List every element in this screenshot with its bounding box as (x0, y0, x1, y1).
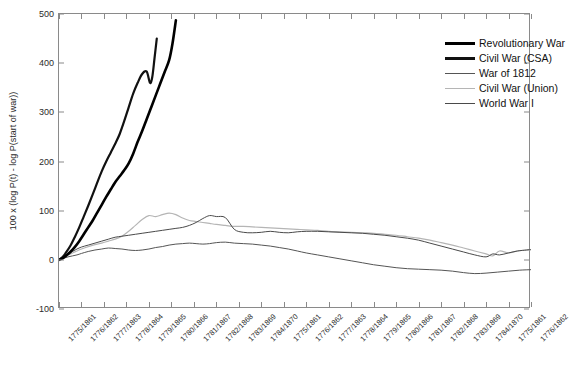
x-tick-mark (374, 302, 375, 307)
y-tick-mark (524, 112, 529, 113)
y-tick-label: 0 (49, 255, 54, 265)
plot-area: -1000100200300400500 Revolutionary WarCi… (58, 13, 530, 308)
y-tick-label: 200 (39, 157, 54, 167)
x-tick-mark (216, 302, 217, 307)
y-tick-mark (59, 63, 64, 64)
x-tick-mark (261, 302, 262, 307)
x-tick-mark (419, 302, 420, 307)
y-tick-label: 500 (39, 9, 54, 19)
x-tick-mark (81, 14, 82, 19)
legend-item: Revolutionary War (445, 36, 573, 51)
legend-swatch (445, 88, 475, 89)
x-tick-mark (306, 14, 307, 19)
legend-label: Civil War (CSA) (479, 53, 552, 64)
x-tick-mark (486, 302, 487, 307)
legend-item: War of 1812 (445, 66, 573, 81)
legend-label: Civil War (Union) (479, 83, 558, 94)
y-tick-mark (59, 259, 64, 260)
y-tick-mark (524, 161, 529, 162)
x-tick-mark (216, 14, 217, 19)
y-tick-label: -100 (36, 304, 54, 314)
x-tick-mark (329, 302, 330, 307)
x-tick-mark (509, 302, 510, 307)
y-tick-mark (59, 309, 64, 310)
x-tick-mark (441, 14, 442, 19)
x-tick-mark (306, 302, 307, 307)
x-tick-mark (284, 302, 285, 307)
x-tick-mark (329, 14, 330, 19)
x-tick-mark (239, 302, 240, 307)
x-tick-mark (261, 14, 262, 19)
x-tick-mark (126, 14, 127, 19)
x-tick-mark (374, 14, 375, 19)
x-tick-mark (194, 302, 195, 307)
y-tick-mark (524, 259, 529, 260)
x-tick-mark (509, 14, 510, 19)
x-tick-mark (351, 14, 352, 19)
legend-swatch (445, 57, 475, 59)
legend-item: World War I (445, 96, 573, 111)
series-line (59, 216, 531, 260)
y-tick-label: 300 (39, 107, 54, 117)
x-tick-mark (149, 302, 150, 307)
legend-item: Civil War (CSA) (445, 51, 573, 66)
legend-swatch (445, 42, 475, 45)
legend-label: World War I (479, 98, 534, 109)
x-tick-mark (464, 302, 465, 307)
x-tick-mark (531, 302, 532, 307)
x-tick-mark (531, 14, 532, 19)
x-tick-mark (81, 302, 82, 307)
y-tick-mark (524, 210, 529, 211)
y-tick-mark (524, 14, 529, 15)
x-tick-mark (149, 14, 150, 19)
x-tick-mark (396, 302, 397, 307)
x-tick-mark (104, 14, 105, 19)
x-tick-mark (59, 14, 60, 19)
x-tick-mark (419, 14, 420, 19)
x-tick-mark (486, 14, 487, 19)
y-tick-mark (59, 112, 64, 113)
x-tick-mark (59, 302, 60, 307)
legend-label: War of 1812 (479, 68, 536, 79)
x-tick-mark (194, 14, 195, 19)
y-tick-mark (524, 309, 529, 310)
y-tick-label: 400 (39, 58, 54, 68)
x-tick-mark (171, 302, 172, 307)
x-tick-mark (351, 302, 352, 307)
y-tick-label: 100 (39, 206, 54, 216)
x-tick-mark (171, 14, 172, 19)
legend-swatch (445, 103, 475, 104)
legend-swatch (445, 73, 475, 74)
x-tick-mark (464, 14, 465, 19)
legend-label: Revolutionary War (479, 38, 565, 49)
x-tick-mark (104, 302, 105, 307)
legend-item: Civil War (Union) (445, 81, 573, 96)
y-tick-mark (59, 161, 64, 162)
y-tick-mark (59, 210, 64, 211)
x-tick-mark (239, 14, 240, 19)
x-tick-mark (396, 14, 397, 19)
series-line (59, 39, 157, 260)
x-tick-mark (126, 302, 127, 307)
series-line (59, 213, 531, 260)
y-axis-label: 100 x (log P(t) - log P(start of war)) (6, 13, 20, 308)
chart-legend: Revolutionary WarCivil War (CSA)War of 1… (445, 36, 573, 111)
x-tick-mark (284, 14, 285, 19)
x-tick-mark (441, 302, 442, 307)
